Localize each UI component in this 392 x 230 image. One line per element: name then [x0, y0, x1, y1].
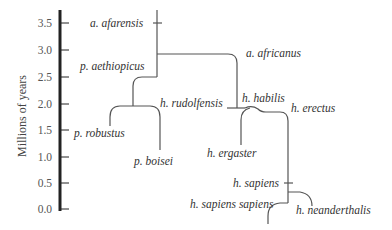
label-h-sapiens-sapiens: h. sapiens sapiens — [190, 198, 273, 210]
tick-label-2-0: 2.0 — [22, 98, 52, 110]
tick-label-1-0: 1.0 — [22, 151, 52, 163]
label-p-aethiopicus: p. aethiopicus — [80, 60, 145, 72]
label-a-afarensis: a. afarensis — [90, 17, 143, 29]
label-h-ergaster: h. ergaster — [207, 147, 256, 159]
label-h-rudolfensis: h. rudolfensis — [160, 97, 223, 109]
tick-label-3-5: 3.5 — [22, 17, 52, 29]
label-h-neanderthalis: h. neanderthalis — [296, 204, 371, 216]
tree-graphic — [0, 0, 392, 230]
branch-boisei — [133, 106, 160, 150]
tick-label-0-0: 0.0 — [22, 203, 52, 215]
branch-aethiopicus — [133, 77, 157, 106]
time-axis — [60, 10, 69, 211]
branches — [110, 10, 312, 224]
label-h-erectus: h. erectus — [291, 102, 335, 114]
label-p-boisei: p. boisei — [134, 155, 173, 167]
hominid-phylogeny-diagram: Millions of years 3.5 3.0 2.5 2.0 1.5 1.… — [0, 0, 392, 230]
tick-label-0-5: 0.5 — [22, 177, 52, 189]
label-h-habilis: h. habilis — [242, 92, 285, 104]
branch-ergaster — [241, 108, 250, 145]
tick-label-2-5: 2.5 — [22, 71, 52, 83]
branch-robustus — [110, 106, 133, 126]
tick-label-3-0: 3.0 — [22, 44, 52, 56]
label-a-africanus: a. africanus — [246, 47, 301, 59]
tick-label-1-5: 1.5 — [22, 124, 52, 136]
y-axis-label: Millions of years — [15, 75, 30, 157]
label-p-robustus: p. robustus — [74, 127, 125, 139]
label-h-sapiens: h. sapiens — [233, 177, 279, 189]
